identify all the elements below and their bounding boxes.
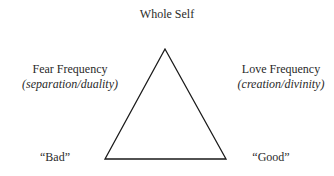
- good-label: “Good”: [250, 150, 292, 165]
- bad-label: “Bad”: [40, 150, 70, 165]
- triangle-shape: [105, 49, 226, 159]
